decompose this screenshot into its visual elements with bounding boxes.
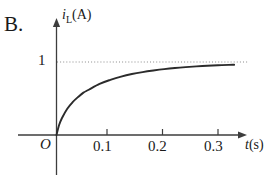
x-axis-label: t(s) <box>245 138 264 152</box>
x-axis-unit: (s) <box>249 137 264 152</box>
option-label: B. <box>4 14 23 35</box>
y-axis-label: iL(A) <box>62 8 91 25</box>
y-axis-unit: (A) <box>72 7 91 22</box>
y-axis-arrowhead <box>53 18 60 27</box>
x-tick-label: 0.1 <box>93 139 112 154</box>
x-tick-label: 0.2 <box>148 139 167 154</box>
y-tick-label: 1 <box>38 53 46 68</box>
origin-label: O <box>40 137 51 152</box>
inductor-current-curve <box>57 65 235 135</box>
figure-option-b: B. iL(A) t(s) 1 O 0.1 0.2 0.3 <box>0 0 274 175</box>
x-tick-label: 0.3 <box>204 139 223 154</box>
